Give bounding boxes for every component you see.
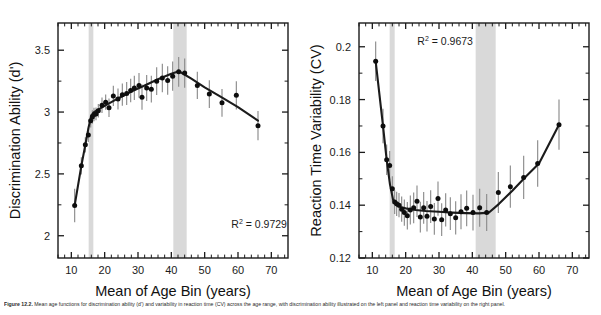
fitted-curve [376, 61, 559, 213]
r-squared-annotation: R2 = 0.9673 [417, 35, 473, 47]
y-tick-label: 0.18 [330, 94, 351, 106]
r-squared-annotation: R2 = 0.9729 [231, 218, 287, 230]
y-tick-label: 3 [44, 106, 50, 118]
data-point [405, 213, 410, 218]
data-point [234, 93, 239, 98]
data-point [170, 74, 175, 79]
x-tick-label: 60 [533, 264, 545, 276]
data-point [496, 190, 501, 195]
data-point [557, 122, 562, 127]
data-point [86, 132, 91, 137]
data-point [72, 203, 77, 208]
data-point [411, 205, 416, 210]
data-point [160, 76, 165, 81]
data-point [381, 123, 386, 128]
panel-reaction-time-variability: 102030405060700.120.140.160.180.2Mean of… [301, 0, 601, 300]
data-point [79, 163, 84, 168]
x-tick-label: 70 [265, 264, 277, 276]
data-point [421, 205, 426, 210]
shaded-band-1 [390, 23, 395, 258]
y-tick-label: 0.16 [330, 146, 351, 158]
data-point [220, 100, 225, 105]
data-point [432, 216, 437, 221]
chart-discrimination-ability: 1020304050607022.533.5Mean of Age Bin (y… [0, 0, 300, 300]
x-tick-label: 50 [199, 264, 211, 276]
figure-caption: Figure 12.2. Mean age functions for disc… [4, 301, 598, 308]
data-point [384, 157, 389, 162]
y-tick-label: 0.2 [336, 41, 351, 53]
data-point [459, 209, 464, 214]
figure-container: 1020304050607022.533.5Mean of Age Bin (y… [0, 0, 601, 315]
figure-caption-label: Figure 12.2. [4, 301, 33, 307]
x-tick-label: 30 [433, 264, 445, 276]
data-point [521, 175, 526, 180]
data-point [195, 83, 200, 88]
shaded-band-1 [89, 23, 94, 258]
data-point [140, 95, 145, 100]
y-tick-label: 3.5 [35, 44, 50, 56]
data-point [418, 215, 423, 220]
data-point [439, 217, 444, 222]
y-tick-label: 0.12 [330, 252, 351, 264]
fitted-curve [75, 71, 258, 205]
data-point [443, 207, 448, 212]
data-point [207, 92, 212, 97]
data-point [124, 91, 129, 96]
data-point [182, 71, 187, 76]
data-point [120, 92, 125, 97]
x-axis-title: Mean of Age Bin (years) [396, 283, 552, 299]
data-point [154, 79, 159, 84]
data-point [116, 97, 121, 102]
data-point [471, 210, 476, 215]
shaded-band-2 [476, 23, 496, 258]
data-point [149, 87, 154, 92]
data-point [464, 206, 469, 211]
y-axis-title: Reaction Time Variability (CV) [308, 44, 324, 236]
x-tick-label: 10 [65, 264, 77, 276]
x-axis-title: Mean of Age Bin (years) [95, 283, 251, 299]
data-point [373, 59, 378, 64]
data-point [144, 85, 149, 90]
data-point [256, 123, 261, 128]
data-point [535, 161, 540, 166]
y-tick-label: 2 [44, 230, 50, 242]
x-tick-label: 70 [566, 264, 578, 276]
figure-caption-text: Mean age functions for discrimination ab… [34, 301, 505, 307]
data-point [508, 184, 513, 189]
x-tick-label: 20 [400, 264, 412, 276]
panel-discrimination-ability: 1020304050607022.533.5Mean of Age Bin (y… [0, 0, 300, 300]
x-tick-label: 40 [466, 264, 478, 276]
data-point [477, 205, 482, 210]
data-point [137, 83, 142, 88]
data-point [484, 210, 489, 215]
y-tick-label: 0.14 [330, 199, 351, 211]
x-tick-label: 10 [366, 264, 378, 276]
data-point [387, 163, 392, 168]
data-point [453, 215, 458, 220]
data-point [176, 69, 181, 74]
y-tick-label: 2.5 [35, 168, 50, 180]
x-tick-label: 30 [132, 264, 144, 276]
data-point [415, 199, 420, 204]
data-point [132, 85, 137, 90]
data-point [107, 105, 112, 110]
x-tick-label: 40 [165, 264, 177, 276]
data-point [165, 78, 170, 83]
data-points [72, 69, 260, 208]
x-tick-label: 50 [500, 264, 512, 276]
data-point [448, 211, 453, 216]
data-point [96, 108, 101, 113]
data-point [425, 214, 430, 219]
data-point [436, 196, 441, 201]
data-point [111, 93, 116, 98]
shaded-band-2 [173, 23, 186, 258]
chart-reaction-time-variability: 102030405060700.120.140.160.180.2Mean of… [301, 0, 601, 300]
data-point [103, 100, 108, 105]
data-point [428, 204, 433, 209]
y-axis-title: Discrimination Ability (d') [7, 62, 23, 219]
x-tick-label: 20 [99, 264, 111, 276]
data-point [390, 186, 395, 191]
data-point [83, 142, 88, 147]
x-tick-label: 60 [232, 264, 244, 276]
